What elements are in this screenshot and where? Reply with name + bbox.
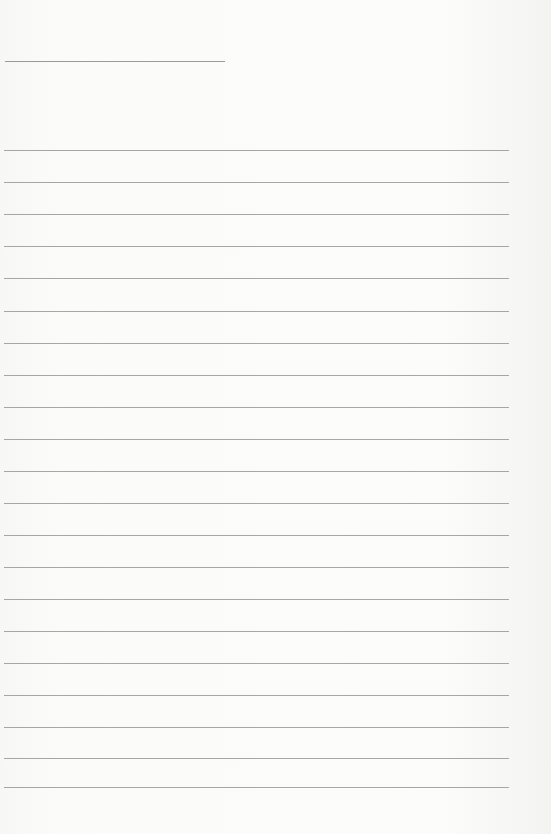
ruled-line [4,727,509,728]
ruled-line [4,663,509,664]
ruled-line [4,695,509,696]
ruled-line [4,787,509,788]
ruled-line [4,567,509,568]
ruled-line [4,439,509,440]
ruled-line [4,246,509,247]
ruled-line [4,182,509,183]
header-line [5,61,225,62]
ruled-line [4,311,509,312]
ruled-line [4,375,509,376]
ruled-line [4,535,509,536]
ruled-line [4,471,509,472]
ruled-line [4,278,509,279]
ruled-line [4,631,509,632]
ruled-line [4,599,509,600]
ruled-line [4,343,509,344]
ruled-line [4,503,509,504]
ruled-line [4,758,509,759]
ruled-line [4,214,509,215]
ruled-line [4,407,509,408]
ruled-line [4,150,509,151]
lined-paper [0,0,551,834]
